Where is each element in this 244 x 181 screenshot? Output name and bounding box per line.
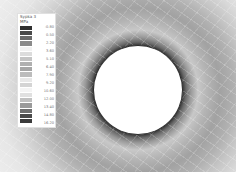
legend-tick-label: 16.20 <box>35 121 54 125</box>
legend-tick-label: 2.20 <box>35 41 54 45</box>
legend-title: Sypka 3 MPa <box>20 15 36 24</box>
legend-tick-label: 0.50 <box>35 33 54 37</box>
legend-tick-label: -0.80 <box>35 25 54 29</box>
legend-tick-label: 7.90 <box>35 73 54 77</box>
color-legend: Sypka 3 MPa -0.800.502.203.605.106.407.9… <box>17 13 56 128</box>
legend-color-bar <box>20 26 32 124</box>
legend-title-unit: MPa <box>20 20 36 25</box>
legend-tick-label: 9.20 <box>35 81 54 85</box>
legend-tick-labels: -0.800.502.203.605.106.407.909.2010.6012… <box>35 25 54 125</box>
legend-tick-label: 14.80 <box>35 113 54 117</box>
legend-tick-label: 13.40 <box>35 105 54 109</box>
legend-tick-label: 6.40 <box>35 65 54 69</box>
circular-hole <box>94 46 182 134</box>
legend-swatch <box>20 119 32 124</box>
legend-tick-label: 5.10 <box>35 57 54 61</box>
legend-tick-label: 12.00 <box>35 97 54 101</box>
legend-tick-label: 10.60 <box>35 89 54 93</box>
legend-tick-label: 3.60 <box>35 49 54 53</box>
